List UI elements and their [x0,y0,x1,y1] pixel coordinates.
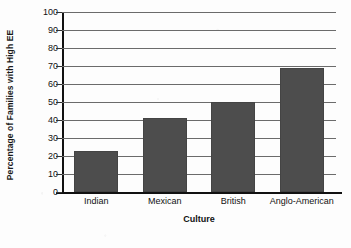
x-axis-tick-label: British [199,196,268,212]
x-axis-tick-label: Mexican [131,196,200,212]
bar-series [62,12,336,192]
bar-slot [268,12,337,192]
bar-slot [62,12,131,192]
bar-anglo-american [280,68,324,192]
x-axis-tick-labels: IndianMexicanBritishAnglo-American [62,196,336,212]
bar-indian [74,151,118,192]
y-axis-tick-mark [56,192,62,193]
bar-chart-figure: Percentage of Families with High EE 0102… [0,0,351,248]
bar-mexican [143,118,187,192]
bar-slot [131,12,200,192]
y-axis-tick-labels: 0102030405060708090100 [22,12,58,192]
x-axis-tick-label: Anglo-American [268,196,337,212]
y-axis-title-text: Percentage of Families with High EE [5,30,15,180]
x-axis-title: Culture [62,214,336,224]
x-axis-line [56,192,342,194]
bar-slot [199,12,268,192]
x-axis-tick-label: Indian [62,196,131,212]
plot-area [62,12,336,192]
y-axis-title: Percentage of Families with High EE [0,0,20,210]
bar-british [211,102,255,192]
